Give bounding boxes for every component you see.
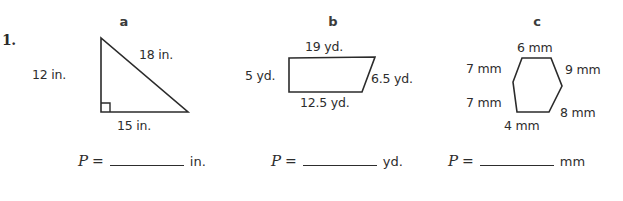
label-trapezoid-left-side: 5 yd.: [245, 68, 275, 83]
label-trapezoid-right-side: 6.5 yd.: [371, 71, 413, 86]
label-hexagon-top: 6 mm: [517, 40, 552, 55]
right-angle-marker: [101, 103, 110, 112]
equals-sign-b: =: [285, 153, 297, 169]
equals-sign-c: =: [462, 153, 474, 169]
part-letter-a: a: [104, 14, 144, 29]
equals-sign-a: =: [92, 153, 104, 169]
trapezoid-shape: [289, 57, 375, 92]
label-trapezoid-top-side: 19 yd.: [305, 39, 343, 54]
unit-label-b: yd.: [383, 154, 403, 169]
answer-prompt-c: P = mm: [448, 152, 585, 178]
answer-blank-c[interactable]: [480, 152, 554, 166]
unit-label-c: mm: [560, 154, 585, 169]
answer-blank-b[interactable]: [303, 152, 377, 166]
worksheet-page: 1. a 12 in. 18 in. 15 in. P = in. b 19 y…: [0, 0, 623, 201]
part-letter-b: b: [313, 14, 353, 29]
answer-prompt-a: P = in.: [78, 152, 206, 178]
perimeter-variable-a: P: [78, 152, 88, 170]
label-trapezoid-bottom-side: 12.5 yd.: [300, 95, 350, 110]
part-letter-c: c: [517, 14, 557, 29]
label-triangle-vertical-side: 12 in.: [32, 67, 66, 82]
label-hexagon-lower-left: 7 mm: [466, 95, 501, 110]
label-hexagon-bottom: 4 mm: [504, 118, 539, 133]
label-hexagon-upper-left: 7 mm: [466, 61, 501, 76]
label-triangle-base: 15 in.: [117, 118, 151, 133]
perimeter-variable-c: P: [448, 152, 458, 170]
label-hexagon-upper-right: 9 mm: [565, 62, 600, 77]
label-triangle-hypotenuse: 18 in.: [139, 47, 173, 62]
hexagon-shape: [513, 58, 562, 112]
label-hexagon-lower-right: 8 mm: [560, 105, 595, 120]
unit-label-a: in.: [190, 154, 206, 169]
answer-blank-a[interactable]: [110, 152, 184, 166]
perimeter-variable-b: P: [271, 152, 281, 170]
answer-prompt-b: P = yd.: [271, 152, 403, 178]
problem-number: 1.: [2, 32, 16, 48]
